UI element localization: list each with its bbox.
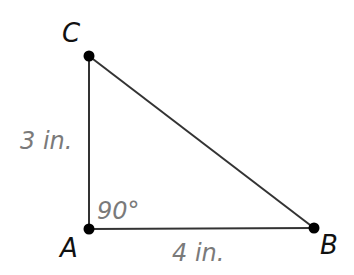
vertex-label-a: A <box>58 233 78 263</box>
side-ab <box>89 228 314 229</box>
side-label-ab: 4 in. <box>172 239 224 267</box>
vertex-dot-a <box>84 224 95 235</box>
side-label-ac: 3 in. <box>20 127 72 155</box>
right-triangle-figure: C A B 3 in. 4 in. 90° <box>0 0 354 275</box>
vertex-label-b: B <box>320 230 338 260</box>
angle-label-a: 90° <box>97 197 140 225</box>
vertex-dot-b <box>309 223 320 234</box>
vertex-dot-c <box>84 51 95 62</box>
vertex-label-c: C <box>62 18 81 48</box>
diagram-canvas: C A B 3 in. 4 in. 90° <box>0 0 354 275</box>
